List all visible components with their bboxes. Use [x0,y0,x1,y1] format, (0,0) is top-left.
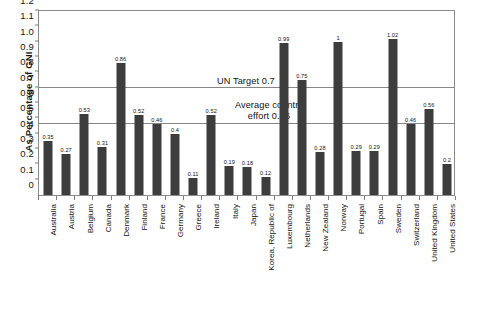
bar [152,124,161,195]
y-tick-label: 0 [29,179,39,190]
bar [406,124,415,195]
x-tick-mark [38,196,39,200]
bar [424,109,433,195]
x-axis-label: Ireland [213,204,221,229]
x-axis-label: Australia [50,204,58,236]
x-tick-mark [201,196,202,200]
bar-slot: 0.27 [57,11,75,195]
x-axis-label: Norway [340,204,348,231]
y-tick-label: 1.0 [20,25,39,36]
bar [442,164,451,195]
x-axis-label: Korea, Republic of [268,204,276,271]
bar-value-label: 0.35 [42,134,53,140]
x-axis-labels: AustraliaAustriaBelgiumCanadaDenmarkFinl… [38,196,455,306]
y-tick-label: 0.3 [20,133,39,144]
x-tick-mark [183,196,184,200]
x-tick-mark [346,196,347,200]
x-axis-label: New Zealand [322,204,330,252]
bar-slot: 0.99 [275,11,293,195]
bar-slot: 0.75 [293,11,311,195]
bar [62,154,71,195]
x-tick-mark [129,196,130,200]
x-tick-mark [328,196,329,200]
bar-slot: 0.86 [112,11,130,195]
y-tick-label: 0.7 [20,71,39,82]
x-axis-label: Greece [195,204,203,231]
bar [261,177,270,195]
x-tick-mark [292,196,293,200]
x-tick-mark [147,196,148,200]
bar-value-label: 0.53 [79,107,90,113]
bar [207,115,216,195]
x-tick-mark [74,196,75,200]
bar-slot: 0.12 [257,11,275,195]
bar [352,151,361,195]
x-axis-label: Germany [177,204,185,237]
y-tick-label: 0.4 [20,117,39,128]
bar-slot: 0.4 [166,11,184,195]
bar-value-label: 0.19 [224,159,235,165]
y-tick-label: 0.1 [20,163,39,174]
bar [170,134,179,195]
x-axis-label: Netherlands [304,204,312,248]
x-tick-mark [256,196,257,200]
bar-value-label: 0.86 [115,56,126,62]
x-tick-mark [382,196,383,200]
bar-series: 0.350.270.530.310.860.520.460.40.110.520… [39,11,454,195]
x-tick-mark [111,196,112,200]
y-tick-label: 0.2 [20,148,39,159]
bar-value-label: 0.31 [97,140,108,146]
bar-value-label: 0.46 [151,117,162,123]
bar-slot: 1 [329,11,347,195]
y-tick-label: 0.6 [20,87,39,98]
bar-slot: 0.56 [420,11,438,195]
y-tick-label: 1.1 [20,10,39,21]
bar-slot: 0.11 [184,11,202,195]
bar-slot: 0.46 [402,11,420,195]
bar [243,167,252,195]
bar-slot: 0.29 [365,11,383,195]
bar-value-label: 0.4 [171,127,179,133]
bar [297,80,306,195]
bar-value-label: 0.29 [351,144,362,150]
x-tick-mark [165,196,166,200]
x-tick-mark [401,196,402,200]
x-tick-mark [455,196,456,200]
x-axis-label: Canada [105,204,113,232]
x-axis-label: Finland [141,204,149,231]
bar-value-label: 0.27 [61,147,72,153]
x-axis-label: Italy [232,204,240,219]
x-tick-mark [237,196,238,200]
bar-value-label: 0.11 [188,171,199,177]
x-axis-label: Belgium [87,204,95,233]
bar-value-label: 1.02 [387,32,398,38]
x-axis-label: Austria [68,204,76,229]
bar [80,114,89,195]
bar-value-label: 0.75 [296,73,307,79]
bar [370,151,379,195]
bar-slot: 0.19 [220,11,238,195]
x-tick-mark [274,196,275,200]
bar-slot: 0.46 [148,11,166,195]
bar [98,147,107,195]
bar-slot: 0.35 [39,11,57,195]
bar [279,43,288,195]
bar-slot: 0.28 [311,11,329,195]
bar-value-label: 0.12 [260,170,271,176]
bar-value-label: 0.56 [423,102,434,108]
bar-slot: 0.31 [93,11,111,195]
bar-slot: 0.29 [347,11,365,195]
y-tick-label: 0.9 [20,41,39,52]
bar-slot: 0.53 [75,11,93,195]
bar-value-label: 1 [337,35,340,41]
bar [134,115,143,195]
bar [116,63,125,195]
bar-slot: 0.52 [130,11,148,195]
x-tick-mark [56,196,57,200]
x-axis-label: Luxembourg [286,204,294,249]
x-axis-label: United Kingdom [431,204,439,262]
bar-value-label: 0.46 [405,117,416,123]
bar-slot: 1.02 [383,11,401,195]
x-tick-mark [364,196,365,200]
bar-slot: 0.52 [202,11,220,195]
